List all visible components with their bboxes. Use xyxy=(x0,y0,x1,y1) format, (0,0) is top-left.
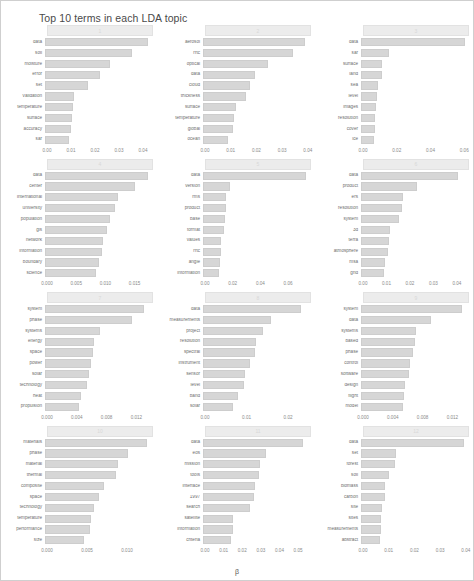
bar xyxy=(203,370,245,378)
bar-category-label: composite xyxy=(3,484,45,489)
bar-category-label: data xyxy=(161,173,203,178)
bar-row: interface xyxy=(161,481,313,490)
bar-row: gis xyxy=(3,225,155,234)
bar-category-label: space xyxy=(3,495,45,500)
bar-track xyxy=(203,182,313,191)
bar xyxy=(45,60,110,68)
x-axis: 0.0000.0040.0080.012 xyxy=(47,413,155,426)
x-axis: 0.000.010.020.030.04 xyxy=(47,146,155,159)
bar-row: values xyxy=(161,236,313,245)
bar-track xyxy=(361,525,471,534)
bar-track xyxy=(361,247,471,256)
bar-row: temperature xyxy=(161,113,313,122)
bar-category-label: product xyxy=(161,206,203,211)
x-axis-tick: 0.01 xyxy=(242,415,251,420)
bar-category-label: grid xyxy=(319,271,361,276)
bar-row: angle xyxy=(161,258,313,267)
x-axis-tick: 0.03 xyxy=(278,148,287,153)
x-axis-tick: 0.012 xyxy=(131,415,143,420)
bar-category-label: rrtc xyxy=(161,51,203,56)
x-axis-tick: 0.004 xyxy=(71,415,83,420)
x-axis-tick: 0.00 xyxy=(43,148,52,153)
x-axis-tick: 0.008 xyxy=(417,415,429,420)
facet-panel: 8datameasurementsprojectresolutionspectr… xyxy=(159,292,317,426)
x-axis-tick: 0.000 xyxy=(357,415,369,420)
bar xyxy=(203,38,305,46)
bar-category-label: product xyxy=(319,184,361,189)
bar-category-label: university xyxy=(3,206,45,211)
bar xyxy=(361,92,377,100)
bar-track xyxy=(203,481,313,490)
bar-row: mission xyxy=(161,460,313,469)
bar-track xyxy=(45,48,155,57)
bar-track xyxy=(203,315,313,324)
bar xyxy=(203,403,233,411)
bar-track xyxy=(203,269,313,278)
x-axis-tick: 0.005 xyxy=(70,281,82,286)
bar-track xyxy=(203,204,313,213)
bar xyxy=(45,327,100,335)
bar-category-label: data xyxy=(319,440,361,445)
bar xyxy=(45,348,93,356)
bar-track xyxy=(361,326,471,335)
facet-strip-label: 9 xyxy=(363,292,469,303)
bar-track xyxy=(45,391,155,400)
x-axis-tick: 0.01 xyxy=(382,281,391,286)
bar-category-label: information xyxy=(161,527,203,532)
bar-category-label: 1997 xyxy=(161,495,203,500)
x-axis-tick: 0.015 xyxy=(129,281,141,286)
bar-track xyxy=(361,438,471,447)
bar-row: model xyxy=(319,402,471,411)
bar-track xyxy=(361,59,471,68)
x-axis-tick: 0.04 xyxy=(452,281,461,286)
bar xyxy=(203,439,303,447)
bar-row: rrtc xyxy=(161,247,313,256)
bar xyxy=(361,38,465,46)
bar-row: ocean xyxy=(161,135,313,144)
bar-track xyxy=(203,391,313,400)
bar xyxy=(361,182,417,190)
bar-category-label: materials xyxy=(3,440,45,445)
bar-category-label: surface xyxy=(319,62,361,67)
bar xyxy=(361,471,389,479)
bar-category-label: sar xyxy=(319,51,361,56)
bar-category-label: sea xyxy=(319,83,361,88)
bar-category-label: rrtc xyxy=(161,249,203,254)
bar-row: international xyxy=(3,193,155,202)
bar xyxy=(45,471,116,479)
bar xyxy=(45,439,147,447)
bar-category-label: international xyxy=(3,195,45,200)
bar-row: global xyxy=(161,124,313,133)
bar-row: system xyxy=(3,305,155,314)
bar xyxy=(361,237,389,245)
x-axis-tick: 0.06 xyxy=(284,281,293,286)
bar xyxy=(203,248,221,256)
bar-row: resolution xyxy=(319,113,471,122)
x-axis: 0.000.010.020.030.04 xyxy=(363,546,471,559)
bar-track xyxy=(203,514,313,523)
bar-row: heat xyxy=(3,391,155,400)
bar xyxy=(361,172,458,180)
bar-row: search xyxy=(161,503,313,512)
bar-category-label: values xyxy=(161,238,203,243)
bar xyxy=(45,114,72,122)
bar-track xyxy=(45,70,155,79)
bar-track xyxy=(203,70,313,79)
facet-panel: 5dataversionrmsproductbaseformatvaluesrr… xyxy=(159,159,317,293)
bar-track xyxy=(45,247,155,256)
bar-row: cloud xyxy=(161,81,313,90)
bar-category-label: mission xyxy=(161,462,203,467)
bar-row: system xyxy=(319,214,471,223)
bar xyxy=(361,381,405,389)
bar-row: technology xyxy=(3,380,155,389)
bar-track xyxy=(45,471,155,480)
bar-row: site xyxy=(319,503,471,512)
bar-track xyxy=(45,514,155,523)
x-axis-tick: 0.000 xyxy=(41,548,53,553)
x-axis: 0.0000.0050.010 xyxy=(47,546,155,559)
bar-row: population xyxy=(3,214,155,223)
facet-strip-label: 8 xyxy=(205,292,311,303)
bar xyxy=(361,316,431,324)
facet-strip-label: 3 xyxy=(363,25,469,36)
bar xyxy=(45,38,148,46)
